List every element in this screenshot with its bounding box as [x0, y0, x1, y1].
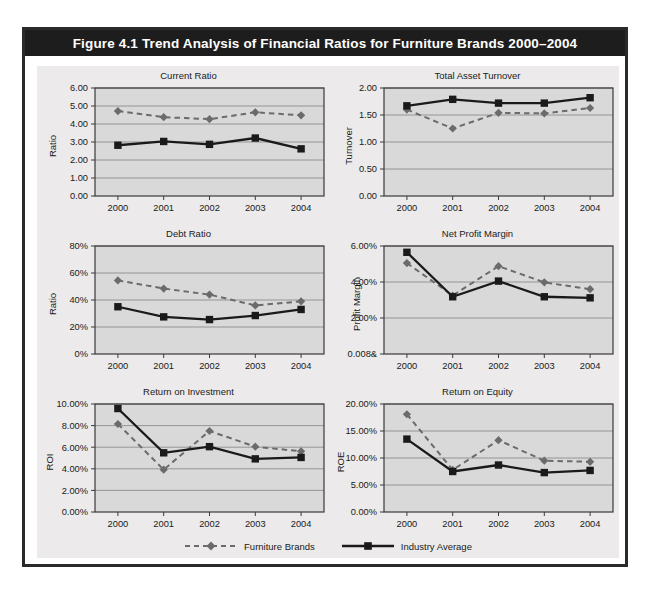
series-marker-square [114, 142, 121, 149]
series-marker-square [114, 405, 121, 412]
series-marker-square [160, 449, 167, 456]
y-tick-label: 1.50 [359, 110, 377, 120]
y-tick-label: 10.00% [345, 453, 377, 463]
x-tick-label: 2000 [108, 361, 129, 371]
series-marker-square [403, 102, 410, 109]
series-marker-square [297, 454, 304, 461]
x-tick-label: 2001 [442, 519, 463, 529]
x-tick-label: 2004 [291, 203, 312, 213]
y-tick-label: 0.00% [351, 507, 377, 517]
x-tick-label: 2003 [245, 361, 266, 371]
chart-title: Debt Ratio [43, 228, 334, 239]
y-tick-label: 0% [75, 349, 88, 359]
plot-area: 0%20%40%60%80%20002001200220032004 [43, 240, 334, 380]
x-tick-label: 2001 [442, 361, 463, 371]
series-marker-square [206, 443, 213, 450]
x-tick-label: 2004 [580, 519, 601, 529]
legend-entry-furniture-brands: Furniture Brands [184, 540, 315, 552]
chart-title: Net Profit Margin [332, 228, 623, 239]
x-tick-label: 2001 [153, 519, 174, 529]
figure-title-bar: Figure 4.1 Trend Analysis of Financial R… [25, 30, 625, 56]
y-tick-label: 40% [69, 295, 88, 305]
y-tick-label: 10.00% [56, 399, 88, 409]
series-marker-square [403, 435, 410, 442]
x-tick-label: 2000 [108, 203, 129, 213]
y-tick-label: 5.00% [351, 480, 377, 490]
x-tick-label: 2002 [199, 203, 220, 213]
y-tick-label: 20.00% [345, 399, 377, 409]
figure-title: Figure 4.1 Trend Analysis of Financial R… [73, 36, 578, 51]
charts-panel: Current Ratio Ratio 0.001.002.003.004.00… [37, 66, 619, 558]
x-tick-label: 2000 [397, 203, 418, 213]
chart-return-on-investment: Return on Investment ROI 0.00%2.00%4.00%… [43, 386, 334, 538]
series-marker-square [495, 99, 502, 106]
x-tick-label: 2001 [153, 361, 174, 371]
series-marker-square [586, 467, 593, 474]
series-marker-square [449, 293, 456, 300]
legend-entry-industry-average: Industry Average [341, 540, 472, 552]
series-marker-square [206, 316, 213, 323]
legend-swatch-dashed-diamond-icon [184, 540, 238, 552]
y-tick-label: 1.00 [70, 173, 88, 183]
x-tick-label: 2000 [108, 519, 129, 529]
series-marker-square [586, 94, 593, 101]
x-tick-label: 2003 [245, 203, 266, 213]
series-marker-square [495, 461, 502, 468]
y-tick-label: 6.00 [70, 83, 88, 93]
plot-area: 0.008&2.00%4.00%6.00%2000200120022003200… [332, 240, 623, 380]
plot-area: 0.00%5.00%10.00%15.00%20.00%200020012002… [332, 398, 623, 538]
series-marker-square [541, 469, 548, 476]
series-marker-square [449, 468, 456, 475]
y-tick-label: 6.00% [62, 443, 88, 453]
x-tick-label: 2002 [199, 361, 220, 371]
chart-current-ratio: Current Ratio Ratio 0.001.002.003.004.00… [43, 70, 334, 222]
x-tick-label: 2002 [488, 361, 509, 371]
y-tick-label: 2.00% [62, 486, 88, 496]
chart-title: Return on Equity [332, 386, 623, 397]
x-tick-label: 2001 [442, 203, 463, 213]
chart-title: Total Asset Turnover [332, 70, 623, 81]
series-marker-square [541, 293, 548, 300]
y-tick-label: 2.00 [359, 83, 377, 93]
chart-title: Current Ratio [43, 70, 334, 81]
series-marker-square [160, 138, 167, 145]
x-tick-label: 2002 [199, 519, 220, 529]
x-tick-label: 2002 [488, 203, 509, 213]
series-marker-square [252, 455, 259, 462]
series-marker-square [252, 134, 259, 141]
y-tick-label: 5.00 [70, 101, 88, 111]
plot-area: 0.001.002.003.004.005.006.00200020012002… [43, 82, 334, 222]
series-marker-square [114, 303, 121, 310]
y-tick-label: 15.00% [345, 426, 377, 436]
x-tick-label: 2003 [534, 519, 555, 529]
y-tick-label: 3.00 [70, 137, 88, 147]
x-tick-label: 2004 [291, 519, 312, 529]
chart-total-asset-turnover: Total Asset Turnover Turnover 0.000.501.… [332, 70, 623, 222]
x-tick-label: 2001 [153, 203, 174, 213]
series-marker-square [403, 249, 410, 256]
y-tick-label: 2.00% [351, 313, 377, 323]
series-marker-square [449, 96, 456, 103]
y-tick-label: 4.00 [70, 119, 88, 129]
chart-return-on-equity: Return on Equity ROE 0.00%5.00%10.00%15.… [332, 386, 623, 538]
figure-frame: Figure 4.1 Trend Analysis of Financial R… [22, 27, 628, 567]
legend-label: Industry Average [401, 541, 472, 552]
plot-area: 0.000.501.001.502.0020002001200220032004 [332, 82, 623, 222]
y-tick-label: 4.00% [351, 277, 377, 287]
x-tick-label: 2000 [397, 361, 418, 371]
series-marker-square [541, 99, 548, 106]
y-tick-label: 0.50 [359, 164, 377, 174]
x-tick-label: 2003 [534, 203, 555, 213]
series-marker-square [206, 141, 213, 148]
series-marker-square [297, 306, 304, 313]
series-marker-square [160, 313, 167, 320]
y-tick-label: 80% [69, 241, 88, 251]
x-tick-label: 2003 [245, 519, 266, 529]
chart-debt-ratio: Debt Ratio Ratio 0%20%40%60%80%200020012… [43, 228, 334, 380]
y-tick-label: 1.00 [359, 137, 377, 147]
y-tick-label: 4.00% [62, 464, 88, 474]
x-tick-label: 2002 [488, 519, 509, 529]
legend-swatch-solid-square-icon [341, 540, 395, 552]
series-marker-square [495, 277, 502, 284]
y-tick-label: 2.00 [70, 155, 88, 165]
